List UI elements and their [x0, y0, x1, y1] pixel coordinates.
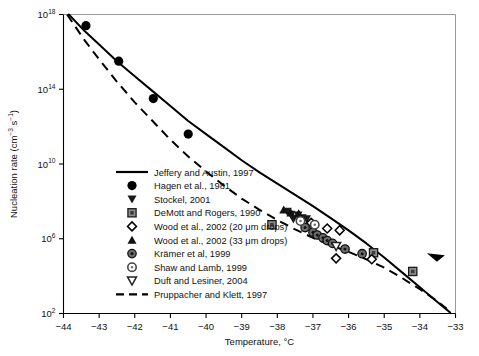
- y-tick-label: 1014: [38, 83, 56, 95]
- data-point-circle-gray-dot: [358, 250, 366, 258]
- x-tick-label: −39: [234, 321, 250, 332]
- x-tick-label: −44: [55, 321, 71, 332]
- nucleation-rate-chart: −44−43−42−41−40−39−38−37−36−35−34−331021…: [0, 0, 479, 356]
- legend-label-8: Duft and Lesiner, 2004: [154, 276, 248, 286]
- data-point-circle-filled: [149, 94, 158, 103]
- legend-marker-4: [128, 222, 137, 231]
- data-point-square-gray: [409, 267, 417, 275]
- x-tick-label: −33: [447, 321, 463, 332]
- x-tick-label: −40: [198, 321, 214, 332]
- legend-label-5: Wood et al., 2002 (33 μm drops): [154, 236, 287, 246]
- x-tick-label: −34: [412, 321, 428, 332]
- y-tick-label: 1010: [38, 157, 56, 169]
- x-tick-label: −41: [162, 321, 178, 332]
- legend-marker-7: [128, 263, 136, 271]
- data-point-circle-filled: [114, 57, 123, 66]
- x-tick-label: −42: [127, 321, 143, 332]
- legend-label-2: Stockel, 2001: [154, 195, 210, 205]
- legend-marker-2: [128, 195, 137, 203]
- legend-label-9: Pruppacher and Klett, 1997: [154, 290, 267, 300]
- x-tick-label: −43: [91, 321, 107, 332]
- legend-label-4: Wood et al., 2002 (20 μm drops): [154, 222, 287, 232]
- curve-jeffery-austin: [69, 15, 450, 313]
- x-tick-label: −35: [376, 321, 392, 332]
- data-point-arrow-filled: [427, 253, 445, 261]
- y-tick-label: 102: [41, 307, 56, 319]
- legend-marker-8: [128, 277, 137, 285]
- x-tick-label: −37: [305, 321, 321, 332]
- data-point-circle-filled: [184, 130, 193, 139]
- legend-marker-5: [128, 236, 137, 244]
- legend-marker-1: [127, 181, 136, 190]
- legend-label-0: Jeffery and Austin, 1997: [154, 168, 254, 178]
- y-tick-label: 1018: [38, 8, 56, 20]
- legend-marker-6: [128, 249, 136, 257]
- data-point-diamond-open: [332, 254, 341, 263]
- legend-label-1: Hagen et al., 1981: [154, 181, 230, 191]
- data-point-circle-filled: [81, 21, 90, 30]
- data-point-circle-open-gray: [296, 217, 304, 225]
- data-point-circle-open-gray: [311, 221, 319, 229]
- legend-label-6: Krämer et al, 1999: [154, 249, 230, 259]
- data-point-circle-gray-dot: [341, 245, 349, 253]
- curve-pruppacher-klett: [67, 15, 450, 312]
- legend-label-3: DeMott and Rogers, 1990: [154, 208, 260, 218]
- legend-label-7: Shaw and Lamb, 1999: [154, 263, 247, 273]
- y-tick-label: 106: [41, 232, 56, 244]
- y-axis-title: Nucleation rate (cm−3 s−1): [7, 110, 19, 218]
- chart-canvas: −44−43−42−41−40−39−38−37−36−35−34−331021…: [0, 0, 479, 356]
- x-axis-title: Temperature, °C: [225, 336, 294, 347]
- x-tick-label: −38: [269, 321, 285, 332]
- data-point-diamond-open: [323, 224, 332, 233]
- legend-marker-3: [128, 209, 136, 217]
- x-tick-label: −36: [341, 321, 357, 332]
